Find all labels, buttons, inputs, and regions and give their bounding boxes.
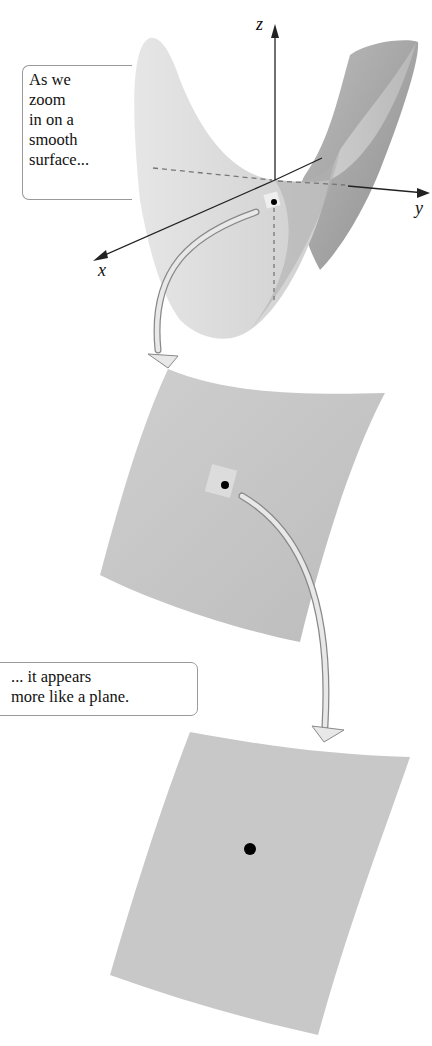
callout-zoom-in: As we zoom in on a smooth surface... [22,65,132,200]
zoomed-surface [100,369,385,642]
callout-line: more like a plane. [11,687,191,707]
callout-line: smooth [29,130,126,150]
z-axis-label: z [256,14,263,35]
y-arrow-icon [417,188,430,198]
tangent-point [244,843,256,855]
callout-line: zoom [29,90,126,110]
callout-line: in on a [29,110,126,130]
z-arrow-icon [271,24,279,38]
near-plane-surface [110,732,410,1035]
tangent-point [221,481,229,489]
tangent-point [271,199,277,205]
callout-line: ... it appears [11,667,191,687]
callout-plane: ... it appears more like a plane. [0,662,198,716]
x-axis-label: x [98,260,106,281]
y-axis-label: y [415,198,423,219]
callout-line: As we [29,70,126,90]
callout-line: surface... [29,150,126,170]
